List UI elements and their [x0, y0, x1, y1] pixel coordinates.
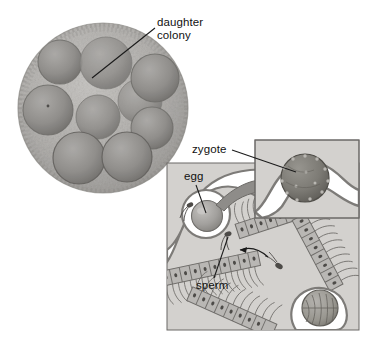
sperm-packet: [291, 288, 347, 330]
zygote-label: zygote: [192, 143, 226, 156]
egg-label: egg: [184, 170, 204, 183]
daughter-colony-label: daughter colony: [157, 16, 203, 41]
sperm-label: sperm: [196, 279, 228, 292]
zygote-inset-panel: [255, 140, 359, 218]
zygote-cell: [280, 154, 329, 202]
figure-canvas: [0, 0, 365, 344]
figure-root: daughter colony zygote egg sperm: [0, 0, 365, 344]
volvox-colony-photomicrograph: [18, 23, 188, 193]
daughter-colony-group: [18, 23, 188, 193]
